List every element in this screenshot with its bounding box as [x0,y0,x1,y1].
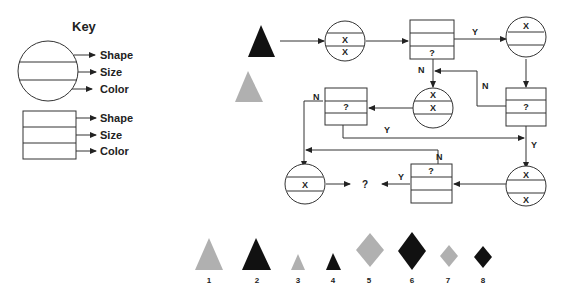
key-box-color-label: Color [100,145,129,157]
start-black-triangle-icon [248,25,275,57]
key-legend: Key Shape Size Color Shape Size Color [18,19,133,159]
option-1-number: 1 [207,276,212,285]
edge-label-b3-no: N [482,81,489,91]
black-small-diamond-icon [474,246,492,268]
black-large-triangle-icon [242,238,271,270]
c5-row2: X [302,180,308,190]
key-box-shape-label: Shape [100,112,133,124]
c3-row2: X [430,103,436,113]
c1-row2: X [342,35,348,45]
option-6[interactable]: 6 [398,232,426,285]
answer-options: 1 2 3 4 5 6 7 8 [195,232,492,285]
c4-row1: X [523,170,529,180]
option-5-number: 5 [367,276,372,285]
edge-label-b1-yes: Y [472,27,478,37]
gray-large-diamond-icon [356,233,384,267]
b4-row1: ? [428,166,434,176]
option-2-number: 2 [255,276,260,285]
option-3[interactable]: 3 [291,254,305,285]
start-gray-triangle-icon [235,71,263,102]
key-box-size-label: Size [100,129,122,141]
b2-row2: ? [343,102,349,112]
key-box-node [23,111,76,159]
option-6-number: 6 [410,276,415,285]
option-8-number: 8 [481,276,486,285]
c1-row3: X [342,47,348,57]
end-question-mark: ? [362,179,368,190]
edge-label-b4-no: N [436,152,443,162]
c3-row1: X [430,90,436,100]
option-3-number: 3 [296,276,301,285]
b1-row3: ? [429,48,435,58]
flowchart-diagram: Key Shape Size Color Shape Size Color [0,0,568,300]
option-7[interactable]: 7 [440,245,458,285]
option-5[interactable]: 5 [356,233,384,285]
edge-label-b2-yes: Y [384,125,390,135]
b3-row2: ? [523,102,529,112]
edge-label-b4-yes: Y [398,172,404,182]
key-circle-color-label: Color [100,83,129,95]
key-title: Key [72,19,97,34]
flow-edges [280,39,526,184]
black-large-diamond-icon [398,232,426,270]
key-circle-node [18,41,78,101]
option-4[interactable]: 4 [326,253,341,285]
option-2[interactable]: 2 [242,238,271,285]
option-4-number: 4 [331,276,336,285]
c2-row1: X [523,21,529,31]
option-8[interactable]: 8 [474,246,492,285]
gray-small-diamond-icon [440,245,458,267]
edge-label-b1-no: N [418,65,425,75]
black-small-triangle-icon [326,253,341,270]
edge-label-b2-no: N [313,92,320,102]
key-circle-shape-label: Shape [100,49,133,61]
option-7-number: 7 [446,276,451,285]
key-circle-size-label: Size [100,66,122,78]
gray-small-triangle-icon [291,254,305,270]
gray-large-triangle-icon [195,238,223,270]
c4-row3: X [523,195,529,205]
edge-label-b3-yes: Y [531,140,537,150]
option-1[interactable]: 1 [195,238,223,285]
